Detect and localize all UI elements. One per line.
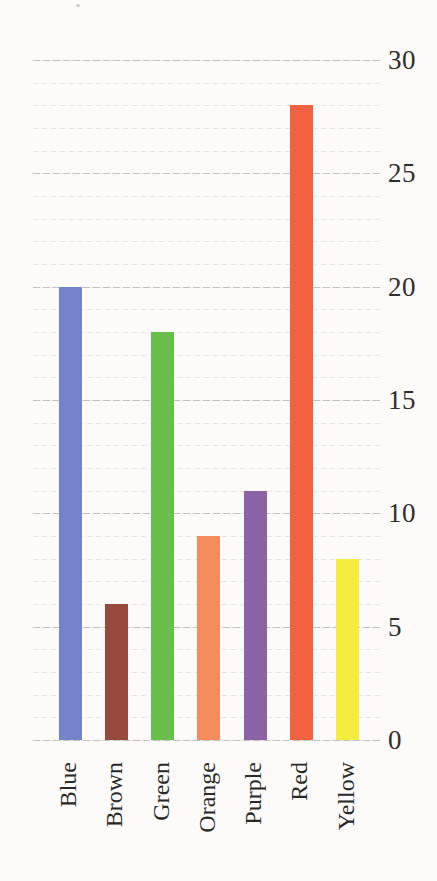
minor-gridline-29 (33, 83, 381, 84)
minor-gridline-26 (33, 151, 381, 152)
scan-artifact-speck (76, 4, 80, 7)
plot-area (33, 60, 381, 740)
major-gridline-25 (33, 173, 381, 174)
bar-blue (59, 287, 82, 740)
y-tick-label-20: 20 (388, 272, 434, 302)
minor-gridline-16 (33, 377, 381, 378)
bar-purple (244, 491, 267, 740)
bar-brown (105, 604, 128, 740)
y-tick-label-25: 25 (388, 158, 434, 188)
x-tick-label-red: Red (286, 762, 313, 801)
minor-gridline-12 (33, 468, 381, 469)
minor-gridline-18 (33, 332, 381, 333)
minor-gridline-17 (33, 355, 381, 356)
minor-gridline-21 (33, 264, 381, 265)
x-tick-label-orange: Orange (194, 762, 221, 833)
major-gridline-15 (33, 400, 381, 401)
minor-gridline-23 (33, 219, 381, 220)
major-gridline-10 (33, 513, 381, 514)
bar-red (290, 105, 313, 740)
x-tick-label-brown: Brown (101, 762, 128, 827)
minor-gridline-27 (33, 128, 381, 129)
minor-gridline-19 (33, 309, 381, 310)
x-tick-label-purple: Purple (240, 762, 267, 825)
bar-green (151, 332, 174, 740)
y-tick-label-30: 30 (388, 45, 434, 75)
minor-gridline-13 (33, 445, 381, 446)
bar-yellow (336, 559, 359, 740)
y-tick-label-10: 10 (388, 498, 434, 528)
minor-gridline-11 (33, 491, 381, 492)
minor-gridline-14 (33, 423, 381, 424)
x-tick-label-blue: Blue (55, 762, 82, 807)
major-gridline-30 (33, 60, 381, 61)
y-tick-label-15: 15 (388, 385, 434, 415)
y-tick-label-5: 5 (388, 612, 434, 642)
minor-gridline-24 (33, 196, 381, 197)
major-gridline-20 (33, 287, 381, 288)
bar-orange (197, 536, 220, 740)
major-gridline-0 (33, 740, 381, 741)
x-tick-label-green: Green (148, 762, 175, 821)
y-tick-label-0: 0 (388, 725, 434, 755)
minor-gridline-22 (33, 241, 381, 242)
scanned-bar-chart-page: 302520151050 BlueBrownGreenOrangePurpleR… (0, 0, 437, 881)
x-tick-label-yellow: Yellow (333, 762, 360, 830)
minor-gridline-28 (33, 105, 381, 106)
